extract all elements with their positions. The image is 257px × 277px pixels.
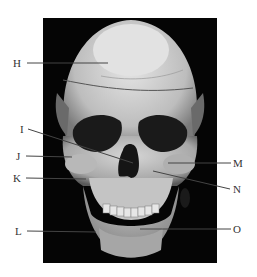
skull-illustration <box>43 18 217 263</box>
label-n: N <box>233 184 241 195</box>
label-h: H <box>13 58 21 69</box>
label-m: M <box>233 158 243 169</box>
skull-photo <box>43 18 217 263</box>
label-k: K <box>13 173 21 184</box>
label-j: J <box>16 151 20 162</box>
label-i: I <box>20 124 24 135</box>
label-o: O <box>233 224 241 235</box>
label-l: L <box>15 226 22 237</box>
